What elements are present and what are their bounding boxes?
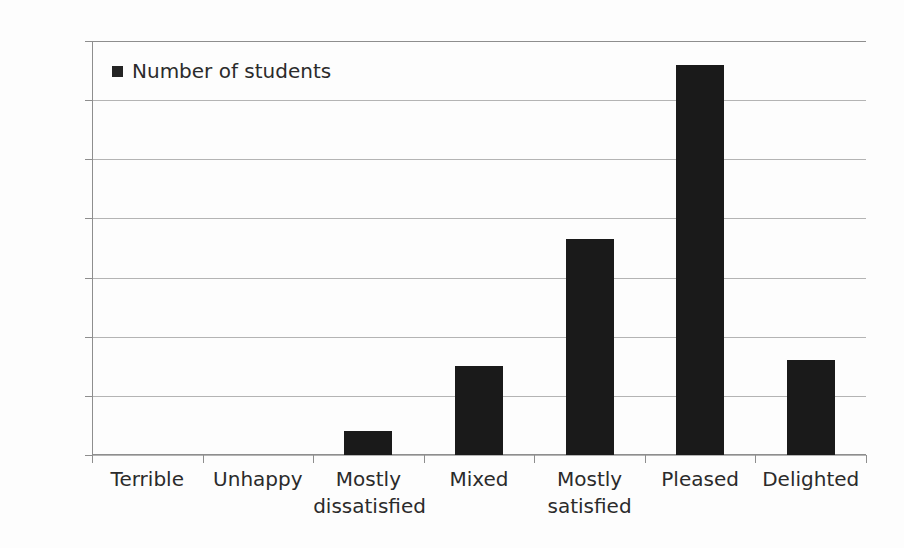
x-axis-label: Delighted	[755, 466, 866, 493]
bar[interactable]	[566, 239, 614, 455]
bars-group	[92, 41, 866, 455]
bar-slot	[424, 41, 535, 455]
x-axis-label-line: Mixed	[449, 467, 508, 491]
chart-page: 020406080100120140 Number of students Te…	[0, 0, 904, 548]
bar-slot	[755, 41, 866, 455]
x-axis-label: Mixed	[424, 466, 535, 493]
bar[interactable]	[787, 360, 835, 455]
y-tick-mark-120	[85, 100, 92, 101]
x-axis-label-line: dissatisfied	[313, 493, 424, 520]
plot-area: 020406080100120140 Number of students	[92, 41, 866, 455]
bar-slot	[534, 41, 645, 455]
y-tick-mark-0	[85, 455, 92, 456]
x-tick-mark-5	[645, 455, 646, 463]
x-axis-label-line: Unhappy	[213, 467, 302, 491]
x-tick-mark-7	[866, 455, 867, 463]
x-axis-label: Unhappy	[203, 466, 314, 493]
x-axis-labels-group: TerribleUnhappyMostlydissatisfiedMixedMo…	[92, 466, 866, 542]
legend-label: Number of students	[132, 59, 331, 83]
bar[interactable]	[455, 366, 503, 455]
bar[interactable]	[676, 65, 724, 455]
bar-slot	[203, 41, 314, 455]
bar[interactable]	[344, 431, 392, 455]
x-tick-mark-2	[313, 455, 314, 463]
x-axis-label: Mostlydissatisfied	[313, 466, 424, 520]
x-axis-label-line: Mostly	[336, 467, 401, 491]
bar-slot	[92, 41, 203, 455]
y-tick-mark-140	[85, 41, 92, 42]
chart-legend: Number of students	[112, 59, 331, 83]
x-axis-label-line: satisfied	[534, 493, 645, 520]
x-axis-label-line: Pleased	[661, 467, 739, 491]
y-tick-mark-40	[85, 337, 92, 338]
x-axis-label-line: Mostly	[557, 467, 622, 491]
bar-slot	[313, 41, 424, 455]
x-tick-mark-6	[755, 455, 756, 463]
x-axis-label-line: Delighted	[762, 467, 859, 491]
y-tick-mark-80	[85, 218, 92, 219]
x-tick-mark-0	[92, 455, 93, 463]
x-axis-label: Terrible	[92, 466, 203, 493]
x-axis-label-line: Terrible	[111, 467, 184, 491]
x-tick-mark-1	[203, 455, 204, 463]
x-tick-mark-4	[534, 455, 535, 463]
y-tick-mark-60	[85, 278, 92, 279]
y-tick-mark-20	[85, 396, 92, 397]
y-tick-mark-100	[85, 159, 92, 160]
x-tick-mark-3	[424, 455, 425, 463]
legend-marker-square-icon	[112, 66, 123, 77]
x-axis-label: Pleased	[645, 466, 756, 493]
bar-slot	[645, 41, 756, 455]
x-axis-label: Mostlysatisfied	[534, 466, 645, 520]
gridline-0	[92, 455, 866, 456]
